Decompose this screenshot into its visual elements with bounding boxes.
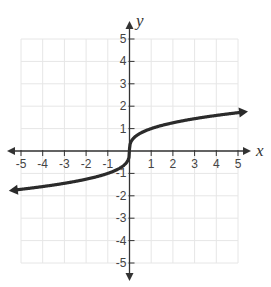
x-tick-label: 3 bbox=[191, 157, 198, 171]
y-tick-label: 4 bbox=[120, 54, 127, 68]
x-tick-label: -2 bbox=[81, 157, 92, 171]
curve-right-arrow-icon bbox=[239, 108, 249, 118]
x-tick-label: 4 bbox=[213, 157, 220, 171]
x-tick-label: -1 bbox=[102, 157, 113, 171]
curve-left-arrow-icon bbox=[9, 185, 19, 195]
y-tick-label: -4 bbox=[116, 234, 127, 248]
y-tick-label: -5 bbox=[116, 256, 127, 270]
x-tick-label: 1 bbox=[148, 157, 155, 171]
y-tick-label: -2 bbox=[116, 189, 127, 203]
y-tick-label: 1 bbox=[120, 122, 127, 136]
x-axis-right-arrow-icon bbox=[243, 147, 251, 155]
y-axis-down-arrow-icon bbox=[126, 273, 134, 281]
x-tick-label: 2 bbox=[170, 157, 177, 171]
cube-root-graph: -5-4-3-2-112345 -5-4-3-2-112345 x y bbox=[0, 0, 271, 287]
x-tick-label: -4 bbox=[37, 157, 48, 171]
y-tick-label: -3 bbox=[116, 211, 127, 225]
x-axis-left-arrow-icon bbox=[7, 147, 15, 155]
x-axis-label: x bbox=[255, 141, 264, 160]
y-tick-label: 3 bbox=[120, 77, 127, 91]
y-axis-label: y bbox=[134, 11, 144, 30]
y-tick-label: 5 bbox=[120, 32, 127, 46]
x-tick-label: -3 bbox=[59, 157, 70, 171]
x-tick-label: -5 bbox=[16, 157, 27, 171]
y-tick-label: 2 bbox=[120, 99, 127, 113]
x-tick-label: 5 bbox=[235, 157, 242, 171]
y-axis-up-arrow-icon bbox=[126, 21, 134, 29]
